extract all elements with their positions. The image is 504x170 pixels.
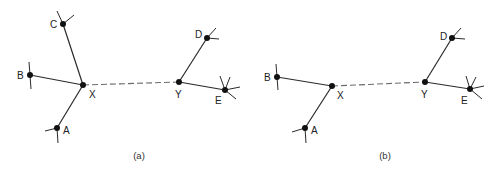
edge-y-d [179,38,207,82]
node-c [60,21,66,27]
node-b [27,72,33,78]
node-label-e: E [215,95,222,106]
edge-x-b [277,77,332,86]
node-label-b: B [17,70,24,81]
node-label-a: A [311,125,318,136]
tree-diagram: ABCXYDE(a) ABXYDE(b) [0,0,504,170]
node-y [176,79,182,85]
node-label-b: B [264,72,271,83]
node-label-x: X [89,89,96,100]
edge-x-a [305,86,332,128]
node-label-x: X [337,90,344,101]
node-label-d: D [195,29,202,40]
node-b [274,74,280,80]
node-y [422,79,428,85]
node-label-y: Y [421,89,428,100]
node-label-a: A [63,125,70,136]
node-label-e: E [461,95,468,106]
node-a [54,125,60,131]
node-e [222,87,228,93]
node-label-d: D [440,31,447,42]
node-x [80,82,86,88]
edge-x-a [57,85,83,128]
edge-y-d [425,38,452,82]
node-a [302,125,308,131]
edge-y-e [425,82,470,89]
node-label-c: C [50,19,57,30]
node-e [467,86,473,92]
dashed-edge-x-y [83,82,179,85]
panel-a: ABCXYDE(a) [17,11,240,161]
edge-x-b [30,75,83,85]
node-label-y: Y [175,89,182,100]
panel-caption: (a) [133,150,145,161]
dashed-edge-x-y [332,82,425,86]
node-x [329,83,335,89]
edge-y-e [179,82,225,90]
node-d [449,35,455,41]
node-d [204,35,210,41]
edge-x-c [63,24,83,85]
panel-caption: (b) [379,150,391,161]
panel-b: ABXYDE(b) [264,28,484,161]
